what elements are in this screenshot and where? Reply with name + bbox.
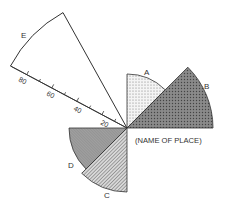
scale-label-60: 60 bbox=[46, 90, 56, 100]
scale-label-40: 40 bbox=[73, 105, 83, 115]
place-label: (NAME OF PLACE) bbox=[135, 136, 202, 145]
scale-label-20: 20 bbox=[100, 119, 110, 129]
sector-label-b: B bbox=[204, 82, 209, 91]
wind-rose-diagram: 20 40 60 80 A B C D E (NAME OF PLACE) bbox=[0, 0, 226, 203]
sector-e bbox=[11, 13, 128, 128]
sector-label-d: D bbox=[68, 161, 74, 170]
sector-label-e: E bbox=[21, 31, 26, 40]
sector-label-a: A bbox=[144, 68, 150, 77]
sector-label-c: C bbox=[104, 191, 110, 200]
scale-label-80: 80 bbox=[18, 76, 28, 86]
